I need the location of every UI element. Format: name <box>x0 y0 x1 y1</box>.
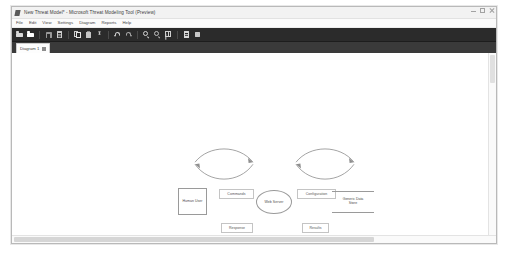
minimize-icon[interactable] <box>471 8 476 13</box>
menu-item-diagram[interactable]: Diagram <box>79 19 95 27</box>
grid-button[interactable] <box>164 30 173 39</box>
tab-strip: Diagram 1 <box>12 42 496 53</box>
window-title: New Threat Model* - Microsoft Threat Mod… <box>24 10 155 16</box>
flow-label-text: Configuration <box>306 192 327 196</box>
flow-label-results[interactable]: Results <box>302 223 329 233</box>
diagram-node-human-user[interactable]: Human User <box>178 188 207 215</box>
horizontal-scrollbar-thumb[interactable] <box>14 237 374 242</box>
data-store-top-line <box>332 191 374 192</box>
document-icon <box>56 31 63 38</box>
flow-connectors <box>12 53 488 235</box>
save-icon <box>45 31 52 38</box>
diagram-node-web-server[interactable]: Web Server <box>256 190 292 214</box>
maximize-icon[interactable] <box>480 8 485 13</box>
close-icon[interactable] <box>489 8 494 13</box>
document-button[interactable] <box>55 30 64 39</box>
app-icon <box>15 10 21 16</box>
cut-button[interactable] <box>95 30 104 39</box>
flow-label-commands[interactable]: Commands <box>219 189 254 199</box>
menu-item-view[interactable]: View <box>42 19 51 27</box>
tab-label: Diagram 1 <box>20 44 39 53</box>
grid-icon <box>165 31 172 38</box>
zoom-in-icon <box>143 31 150 38</box>
flow-label-configuration[interactable]: Configuration <box>297 189 336 199</box>
node-label: Web Server <box>265 200 284 204</box>
new-folder-icon <box>27 31 34 38</box>
cut-icon <box>96 31 103 38</box>
node-label: Human User <box>182 199 202 203</box>
toolbar-separator <box>108 31 109 39</box>
analyze-icon <box>194 31 201 38</box>
report-icon <box>183 31 190 38</box>
redo-button[interactable] <box>124 30 133 39</box>
node-label: Generic Data Store <box>332 197 374 205</box>
undo-button[interactable] <box>113 30 122 39</box>
flow-label-response[interactable]: Response <box>221 223 253 233</box>
toolbar <box>12 28 496 42</box>
new-folder-button[interactable] <box>26 30 35 39</box>
diagram-node-generic-data-store[interactable]: Generic Data Store <box>332 191 374 213</box>
menu-item-file[interactable]: File <box>16 19 23 27</box>
tab-diagram-1[interactable]: Diagram 1 <box>16 43 50 53</box>
paste-icon <box>85 31 92 38</box>
diagram-canvas[interactable]: Human User Commands Response Web Server … <box>12 53 488 235</box>
menu-item-help[interactable]: Help <box>122 19 131 27</box>
open-folder-icon <box>16 31 23 38</box>
menu-item-reports[interactable]: Reports <box>101 19 116 27</box>
toolbar-separator <box>39 31 40 39</box>
horizontal-scrollbar[interactable] <box>12 235 496 243</box>
tab-close-icon[interactable] <box>42 47 46 51</box>
application-window: New Threat Model* - Microsoft Threat Mod… <box>11 6 497 244</box>
undo-icon <box>114 31 121 38</box>
toolbar-separator <box>68 31 69 39</box>
zoom-out-icon <box>154 31 161 38</box>
save-button[interactable] <box>44 30 53 39</box>
copy-icon <box>74 31 81 38</box>
toolbar-separator <box>137 31 138 39</box>
title-bar: New Threat Model* - Microsoft Threat Mod… <box>12 7 496 19</box>
canvas-area: Human User Commands Response Web Server … <box>12 53 496 235</box>
vertical-scrollbar-thumb[interactable] <box>490 55 495 83</box>
menu-item-edit[interactable]: Edit <box>29 19 36 27</box>
zoom-in-button[interactable] <box>142 30 151 39</box>
data-store-bottom-line <box>332 212 374 213</box>
menu-bar: File Edit View Settings Diagram Reports … <box>12 19 496 28</box>
menu-item-settings[interactable]: Settings <box>58 19 74 27</box>
toolbar-separator <box>177 31 178 39</box>
paste-button[interactable] <box>84 30 93 39</box>
copy-button[interactable] <box>73 30 82 39</box>
flow-label-text: Results <box>309 226 321 230</box>
zoom-out-button[interactable] <box>153 30 162 39</box>
screen-root: New Threat Model* - Microsoft Threat Mod… <box>0 0 523 261</box>
vertical-scrollbar[interactable] <box>488 53 496 235</box>
report-button[interactable] <box>182 30 191 39</box>
redo-icon <box>125 31 132 38</box>
analyze-button[interactable] <box>193 30 202 39</box>
window-controls <box>471 8 494 13</box>
flow-label-text: Commands <box>227 192 245 196</box>
open-folder-button[interactable] <box>15 30 24 39</box>
flow-label-text: Response <box>229 226 245 230</box>
